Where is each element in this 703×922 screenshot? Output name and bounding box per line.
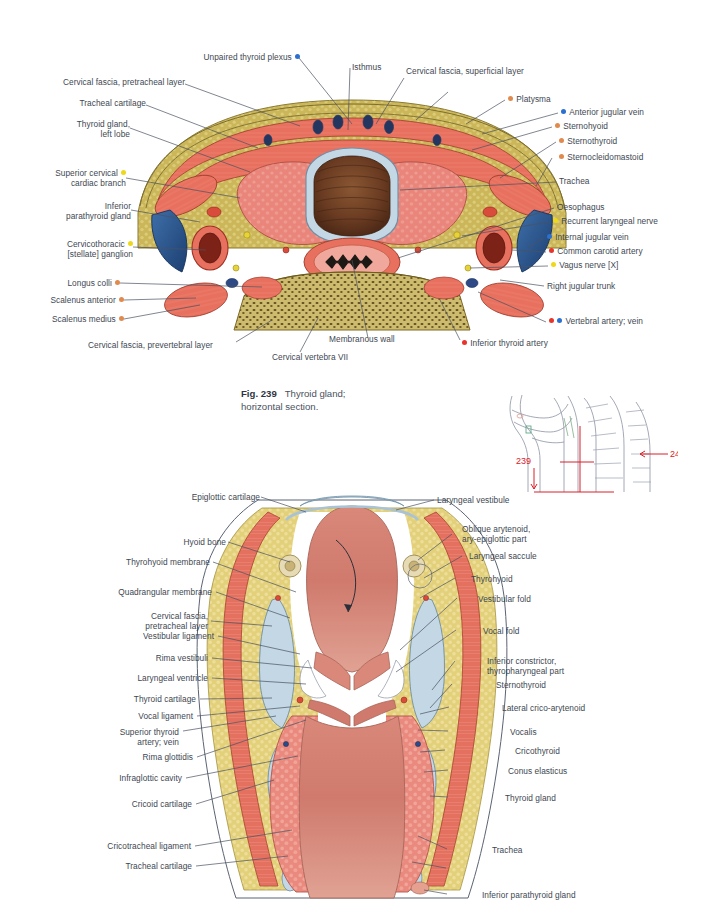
figure-240-illustration [0, 0, 703, 922]
label-thyroid-cartilage: Thyroid cartilage [60, 694, 196, 704]
label-superior-thyroid-artery-vein: Superior thyroid artery; vein [50, 727, 179, 747]
label-thyrohyoid-membrane: Thyrohyoid membrane [30, 557, 210, 567]
label-inferior-parathyroid-gland-240: Inferior parathyroid gland [482, 890, 576, 900]
label-vocalis: Vocalis [510, 727, 537, 737]
label-thyroid-gland-240: Thyroid gland [505, 793, 556, 803]
label-hyoid-bone: Hyoid bone [60, 537, 226, 547]
label-vestibular-fold: Vestibular fold [478, 594, 531, 604]
label-cricothyroid: Cricothyroid [515, 746, 560, 756]
label-laryngeal-vestibule: Laryngeal vestibule [437, 495, 509, 505]
label-cricoid-cartilage: Cricoid cartilage [50, 799, 192, 809]
label-tracheal-cartilage-240: Tracheal cartilage [50, 861, 192, 871]
label-rima-vestibuli: Rima vestibuli [60, 653, 208, 663]
atlas-page: Unpaired thyroid plexus Isthmus Cervical… [0, 0, 703, 922]
label-trachea-240: Trachea [492, 845, 522, 855]
label-vocal-ligament: Vocal ligament [60, 711, 193, 721]
label-cervical-fascia-pretracheal-240: Cervical fascia, pretracheal layer [50, 611, 208, 631]
label-sternothyroid-240: Sternothyroid [496, 680, 546, 690]
label-vocal-fold: Vocal fold [483, 626, 519, 636]
label-laryngeal-ventricle: Laryngeal ventricle [50, 673, 208, 683]
label-rima-glottidis: Rima glottidis [60, 752, 193, 762]
label-conus-elasticus: Conus elasticus [508, 766, 567, 776]
label-cricotracheal-ligament: Cricotracheal ligament [30, 841, 191, 851]
label-infraglottic-cavity: Infraglottic cavity [40, 773, 182, 783]
label-laryngeal-saccule: Laryngeal saccule [469, 551, 537, 561]
label-inferior-constrictor: Inferior constrictor, thyropharyngeal pa… [487, 656, 564, 676]
label-epiglottic-cartilage: Epiglottic cartilage [60, 492, 260, 502]
label-thyrohyoid: Thyrohyoid [471, 574, 513, 584]
label-vestibular-ligament: Vestibular ligament [48, 631, 214, 641]
label-lateral-crico-arytenoid: Lateral crico-arytenoid [502, 703, 585, 713]
label-oblique-arytenoid: Oblique arytenoid, ary-epiglottic part [462, 524, 530, 544]
label-quadrangular-membrane: Quadrangular membrane [30, 587, 212, 597]
